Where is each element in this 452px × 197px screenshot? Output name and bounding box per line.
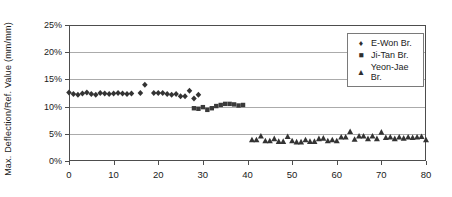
data-point xyxy=(111,91,117,97)
data-point xyxy=(84,89,90,95)
data-point xyxy=(138,90,144,96)
data-point xyxy=(66,89,72,95)
x-tick-label: 0 xyxy=(66,169,71,180)
data-point xyxy=(258,133,264,139)
legend-label-jitan: Ji-Tan Br. xyxy=(371,50,409,60)
data-point xyxy=(164,91,170,97)
data-point xyxy=(271,136,277,142)
y-tick-label: 20% xyxy=(44,47,62,57)
series-diamond xyxy=(66,82,201,102)
x-tick-label: 60 xyxy=(331,169,342,180)
data-point xyxy=(93,92,99,98)
data-point xyxy=(343,134,349,140)
triangle-marker-icon: ▲ xyxy=(356,68,366,77)
data-point xyxy=(387,134,393,140)
data-point xyxy=(201,105,205,109)
data-point xyxy=(280,138,286,144)
data-point xyxy=(241,103,245,107)
data-point xyxy=(89,91,95,97)
legend-label-yeonjae: Yeon-Jae Br. xyxy=(371,62,421,82)
data-point xyxy=(320,135,326,141)
data-point xyxy=(405,134,411,140)
data-point xyxy=(80,91,86,97)
y-tick-label: 15% xyxy=(44,74,62,84)
data-point xyxy=(192,106,196,110)
data-point xyxy=(214,104,218,108)
data-point xyxy=(191,95,197,101)
data-point xyxy=(71,91,77,97)
data-point xyxy=(361,133,367,139)
data-point xyxy=(142,82,148,88)
data-point xyxy=(160,90,166,96)
data-point xyxy=(97,90,103,96)
data-point xyxy=(196,92,202,98)
data-point xyxy=(187,88,193,94)
deflection-chart: Max. Deflection/Ref. Value (mm/mm) 0%5%1… xyxy=(0,0,452,197)
legend: ♦ E-Won Br. ■ Ji-Tan Br. ▲ Yeon-Jae Br. xyxy=(347,33,424,87)
series-triangle xyxy=(249,129,429,145)
data-point xyxy=(329,137,335,143)
data-point xyxy=(227,102,231,106)
legend-item-ewon: ♦ E-Won Br. xyxy=(356,38,421,48)
data-point xyxy=(369,133,375,139)
data-point xyxy=(378,129,384,135)
data-point xyxy=(129,91,135,97)
data-point xyxy=(124,91,130,97)
data-point xyxy=(210,106,214,110)
y-tick-label: 10% xyxy=(44,102,62,112)
data-point xyxy=(102,91,108,97)
legend-item-jitan: ■ Ji-Tan Br. xyxy=(356,50,421,60)
data-point xyxy=(401,135,407,141)
y-tick-label: 5% xyxy=(49,129,62,139)
x-tick-label: 80 xyxy=(421,169,432,180)
data-point xyxy=(115,90,121,96)
x-tick-label: 20 xyxy=(153,169,164,180)
data-point xyxy=(232,102,236,106)
y-tick-label: 0% xyxy=(49,156,62,166)
legend-label-ewon: E-Won Br. xyxy=(371,38,412,48)
x-tick-label: 50 xyxy=(287,169,298,180)
data-point xyxy=(219,103,223,107)
x-tick-label: 40 xyxy=(242,169,253,180)
data-point xyxy=(196,107,200,111)
square-marker-icon: ■ xyxy=(356,51,366,60)
data-point xyxy=(75,92,81,98)
legend-item-yeonjae: ▲ Yeon-Jae Br. xyxy=(356,62,421,82)
data-point xyxy=(205,108,209,112)
plot-area: 0%5%10%15%20%25%01020304050607080 xyxy=(0,0,452,197)
data-point xyxy=(303,137,309,143)
data-point xyxy=(106,91,112,97)
diamond-marker-icon: ♦ xyxy=(356,39,366,48)
data-point xyxy=(120,91,126,97)
y-tick-label: 25% xyxy=(44,20,62,30)
data-point xyxy=(169,92,175,98)
data-point xyxy=(396,134,402,140)
x-tick-label: 10 xyxy=(108,169,119,180)
data-point xyxy=(347,129,353,135)
data-point xyxy=(352,136,358,142)
data-point xyxy=(182,93,188,99)
data-point xyxy=(223,102,227,106)
x-tick-label: 70 xyxy=(376,169,387,180)
x-tick-label: 30 xyxy=(198,169,209,180)
data-point xyxy=(236,103,240,107)
data-point xyxy=(423,137,429,143)
